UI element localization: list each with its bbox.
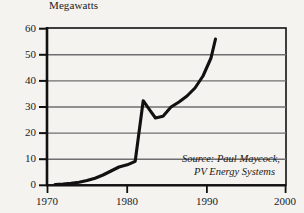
y-axis-label-40: 40 xyxy=(8,75,36,86)
source-annotation: Source: Paul Maycock, PV Energy Systems xyxy=(176,152,286,178)
y-axis-label-20: 20 xyxy=(8,127,36,138)
plot-area xyxy=(0,0,304,213)
y-axis-label-10: 10 xyxy=(8,153,36,164)
x-axis-label-1990: 1990 xyxy=(184,196,230,207)
x-axis-label-1980: 1980 xyxy=(104,196,150,207)
source-line-2: PV Energy Systems xyxy=(176,165,286,178)
y-axis-label-0: 0 xyxy=(8,179,36,190)
y-axis-label-60: 60 xyxy=(8,23,36,34)
source-line-1: Source: Paul Maycock, xyxy=(182,153,280,164)
y-axis-label-50: 50 xyxy=(8,49,36,60)
x-axis-label-2000: 2000 xyxy=(262,196,304,207)
x-axis-label-1970: 1970 xyxy=(24,196,70,207)
photovoltaic-shipments-chart: Megawatts 60 50 40 30 20 10 0 1970 xyxy=(0,0,304,213)
y-axis-label-30: 30 xyxy=(8,101,36,112)
